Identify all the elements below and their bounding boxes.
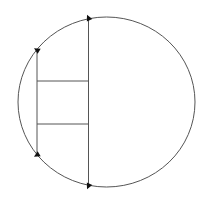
arrowheads [32,14,92,191]
circle-chord-diagram [0,0,208,202]
arrow-top-right-icon [84,14,92,22]
horizontal-segments [37,81,89,124]
circle-outline [18,17,195,187]
arrow-bottom-right-icon [84,182,92,190]
vertical-chords [37,18,89,186]
